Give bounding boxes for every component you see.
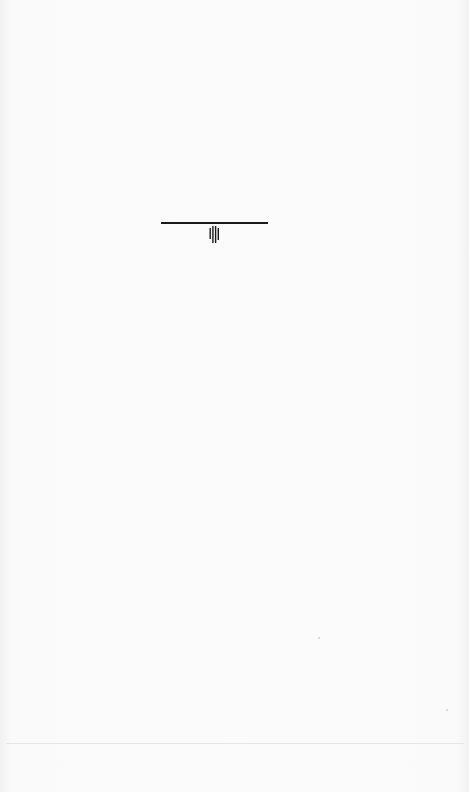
bleed-through-region-top xyxy=(40,70,430,110)
bleed-through-region-middle xyxy=(40,260,430,440)
scan-speck xyxy=(446,709,448,711)
scan-speck xyxy=(318,637,320,639)
bleed-through-region-lower xyxy=(40,545,430,645)
footer-separator-line xyxy=(6,743,464,744)
document-page xyxy=(0,0,469,792)
vertical-bars-ornament-icon xyxy=(209,226,221,244)
section-divider-rule xyxy=(161,222,268,224)
